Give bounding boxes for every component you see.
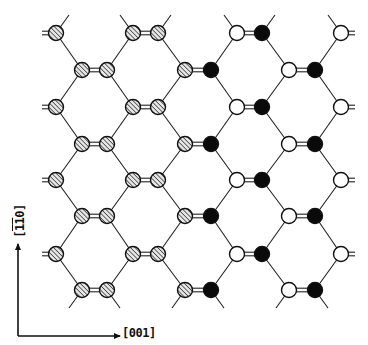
atom-black xyxy=(308,209,323,224)
atom-black xyxy=(255,26,270,41)
atom-white xyxy=(334,173,349,188)
atom-hatched xyxy=(49,247,64,262)
atom-white xyxy=(334,26,349,41)
atom-white xyxy=(282,209,297,224)
atom-black xyxy=(204,63,219,78)
label-char: ] xyxy=(13,204,27,211)
atom-hatched xyxy=(178,63,193,78)
atom-white xyxy=(230,100,245,115)
atom-black xyxy=(255,173,270,188)
atoms-layer xyxy=(49,26,349,298)
atom-hatched xyxy=(100,63,115,78)
atom-hatched xyxy=(178,283,193,298)
atom-hatched xyxy=(75,137,90,152)
atom-hatched xyxy=(100,209,115,224)
atom-hatched xyxy=(49,26,64,41)
atom-hatched xyxy=(151,247,166,262)
atom-hatched xyxy=(100,137,115,152)
atom-black xyxy=(204,209,219,224)
lattice-diagram xyxy=(0,0,368,345)
atom-hatched xyxy=(151,173,166,188)
atom-hatched xyxy=(151,26,166,41)
atom-white xyxy=(282,137,297,152)
atom-hatched xyxy=(178,137,193,152)
label-char-overbar: 1 xyxy=(13,218,27,225)
atom-hatched xyxy=(126,173,141,188)
atom-white xyxy=(334,247,349,262)
atom-black xyxy=(308,63,323,78)
atom-white xyxy=(334,100,349,115)
atom-white xyxy=(282,283,297,298)
atom-hatched xyxy=(49,173,64,188)
atom-white xyxy=(230,173,245,188)
atom-hatched xyxy=(75,283,90,298)
atom-hatched xyxy=(178,209,193,224)
atom-hatched xyxy=(100,283,115,298)
atom-black xyxy=(308,137,323,152)
atom-black xyxy=(204,283,219,298)
atom-white xyxy=(230,247,245,262)
axis-label-1bar1bar0: [110] xyxy=(13,199,27,243)
atom-hatched xyxy=(126,26,141,41)
atom-hatched xyxy=(49,100,64,115)
atom-black xyxy=(255,247,270,262)
atom-white xyxy=(230,26,245,41)
label-char: 0 xyxy=(13,211,27,218)
atom-white xyxy=(282,63,297,78)
atom-hatched xyxy=(75,209,90,224)
axis-label-001: [001] xyxy=(122,326,156,340)
atom-black xyxy=(204,137,219,152)
atom-hatched xyxy=(126,247,141,262)
atom-hatched xyxy=(75,63,90,78)
atom-hatched xyxy=(151,100,166,115)
label-char-overbar: 1 xyxy=(13,224,27,231)
label-char: [ xyxy=(13,231,27,238)
atom-black xyxy=(255,100,270,115)
atom-hatched xyxy=(126,100,141,115)
atom-black xyxy=(308,283,323,298)
bonds-layer xyxy=(42,15,355,308)
